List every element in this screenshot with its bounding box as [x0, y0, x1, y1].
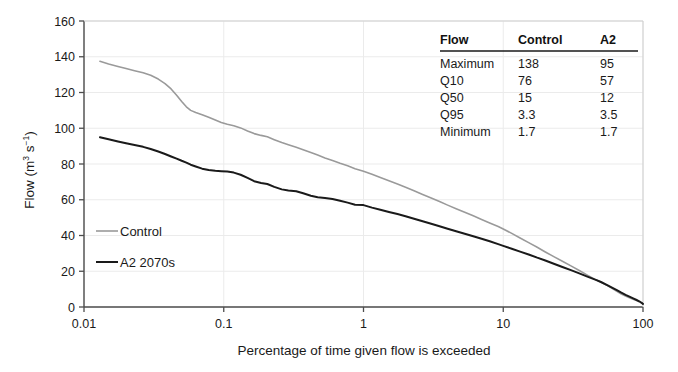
y-tick-label: 0	[68, 301, 75, 315]
table-cell-a2: 3.5	[600, 108, 617, 122]
y-tick-label: 140	[54, 50, 75, 64]
table-header-control: Control	[518, 33, 562, 47]
table-cell-a2: 12	[600, 91, 614, 105]
table-cell-label: Minimum	[440, 125, 491, 139]
table-cell-a2: 95	[600, 57, 614, 71]
y-tick-label: 40	[61, 229, 75, 243]
table-cell-a2: 57	[600, 74, 614, 88]
x-tick-label: 100	[633, 317, 654, 331]
x-tick-label: 10	[496, 317, 510, 331]
y-tick-label: 120	[54, 86, 75, 100]
y-axis-title-mid: s	[22, 145, 37, 156]
figure-background	[0, 0, 678, 372]
table-cell-label: Q95	[440, 108, 464, 122]
y-tick-label: 80	[61, 158, 75, 172]
x-tick-label: 0.01	[72, 317, 96, 331]
table-cell-control: 1.7	[518, 125, 535, 139]
table-cell-control: 138	[518, 57, 539, 71]
y-axis-title-suffix: )	[22, 131, 37, 136]
legend-label-a2: A2 2070s	[120, 255, 175, 270]
y-tick-label: 20	[61, 265, 75, 279]
y-tick-label: 60	[61, 193, 75, 207]
table-cell-a2: 1.7	[600, 125, 617, 139]
flow-duration-curve-figure: 020406080100120140160 0.010.1110100 Flow…	[0, 0, 678, 372]
table-cell-label: Q10	[440, 74, 464, 88]
table-cell-control: 76	[518, 74, 532, 88]
table-cell-label: Maximum	[440, 57, 494, 71]
x-tick-label: 1	[360, 317, 367, 331]
table-cell-label: Q50	[440, 91, 464, 105]
table-cell-control: 15	[518, 91, 532, 105]
table-header-flow: Flow	[440, 33, 469, 47]
y-axis-title-sup-inverse: −1	[21, 136, 31, 146]
chart-canvas: 020406080100120140160 0.010.1110100 Flow…	[0, 0, 678, 372]
y-axis-title-prefix: Flow (m	[22, 161, 37, 209]
table-header-a2: A2	[600, 33, 616, 47]
legend-label-control: Control	[120, 224, 162, 239]
y-tick-label: 100	[54, 122, 75, 136]
x-axis-title: Percentage of time given flow is exceede…	[238, 343, 491, 358]
table-cell-control: 3.3	[518, 108, 535, 122]
y-tick-label: 160	[54, 15, 75, 29]
x-tick-label: 0.1	[215, 317, 232, 331]
